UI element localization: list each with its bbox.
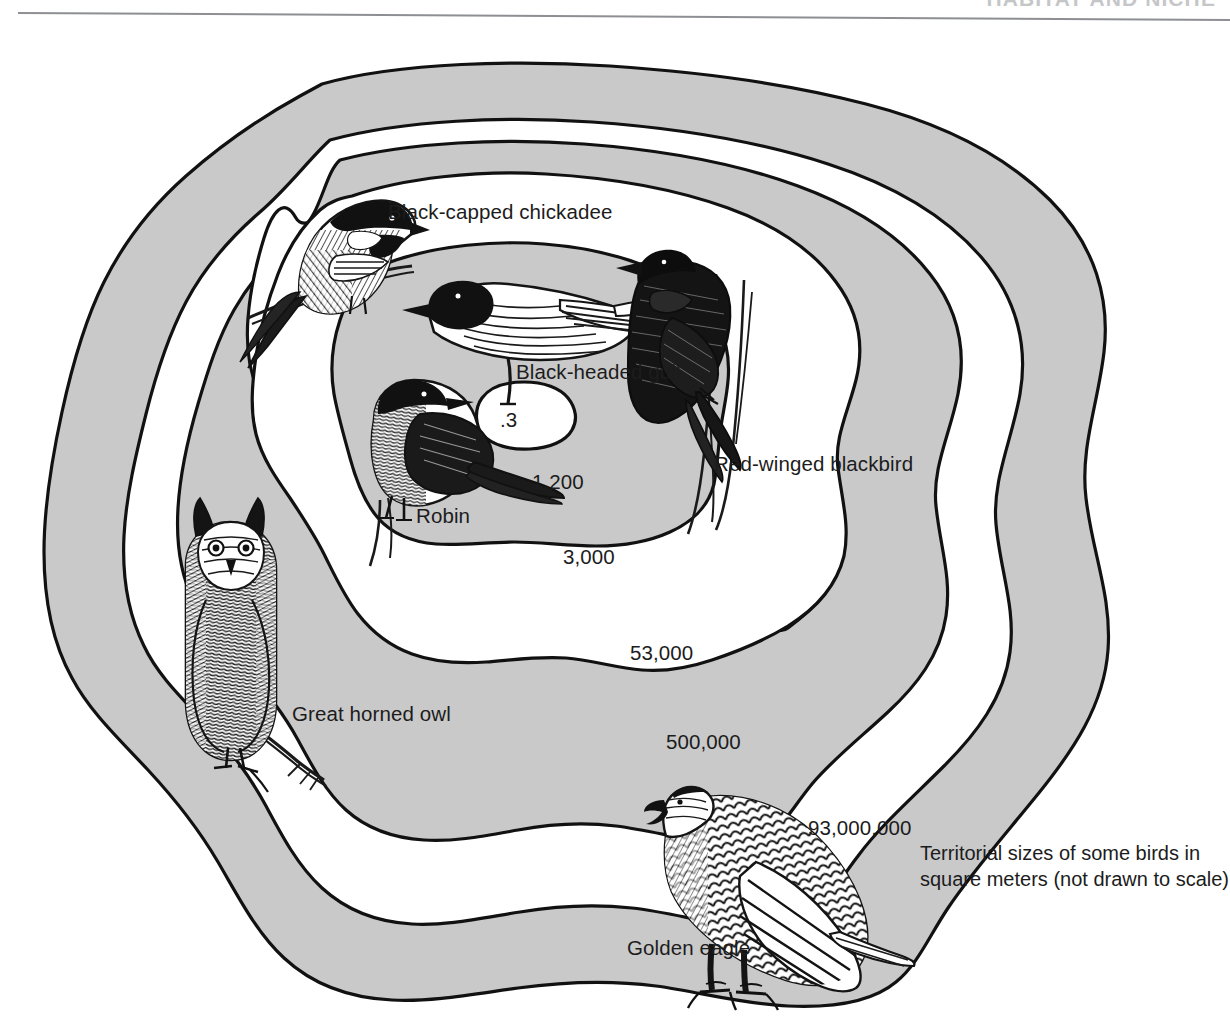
figure-caption-line-1: Territorial sizes of some birds in [920, 840, 1229, 866]
ring-value-label-93000000: 93,000,000 [808, 816, 912, 840]
figure-page: HABITAT AND NICHE [0, 0, 1230, 1036]
figure-caption: Territorial sizes of some birds in squar… [920, 840, 1229, 893]
bird-label-great-horned-owl: Great horned owl [292, 702, 451, 726]
ring-value-label-53000: 53,000 [630, 641, 693, 665]
bird-label-golden-eagle: Golden eagle [627, 936, 750, 960]
ring-value-label-1200: 1,200 [532, 470, 584, 494]
figure-caption-line-2: square meters (not drawn to scale) [920, 866, 1229, 892]
ring-value-label-500000: 500,000 [666, 730, 741, 754]
bird-label-red-winged-blackbird: Red-winged blackbird [714, 452, 913, 476]
bird-label-black-headed-gull: Black-headed gull [516, 360, 681, 384]
ring-value-label-3000: 3,000 [563, 545, 615, 569]
contour-ring-03 [476, 382, 575, 449]
ring-value-label-03: .3 [500, 408, 517, 432]
bird-label-black-capped-chickadee: Black-capped chickadee [388, 200, 612, 224]
bird-label-robin: Robin [416, 504, 470, 528]
